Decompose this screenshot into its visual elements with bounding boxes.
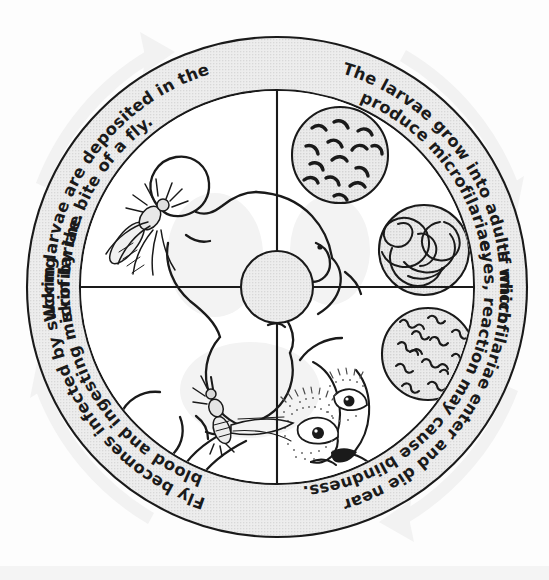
life-cycle-diagram: Worm larvae are deposited in the skin by…: [0, 0, 549, 580]
eye-left: [298, 418, 339, 444]
inset-circle-larvae: [292, 107, 388, 203]
diagram-canvas: Worm larvae are deposited in the skin by…: [0, 0, 549, 580]
inset-circle-adult-worms: [379, 205, 469, 295]
scan-edge-smudge: [0, 566, 549, 580]
center-hub: [241, 251, 313, 323]
